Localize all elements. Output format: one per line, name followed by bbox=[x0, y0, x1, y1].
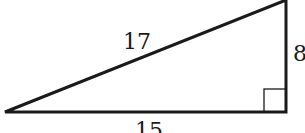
horizontal-leg-label: 15 bbox=[135, 118, 163, 133]
triangle-shape bbox=[5, 0, 286, 112]
right-triangle-diagram: 17 8 15 bbox=[0, 0, 305, 133]
hypotenuse-label: 17 bbox=[123, 29, 151, 54]
right-angle-marker bbox=[264, 89, 286, 112]
vertical-leg-label: 8 bbox=[293, 41, 305, 66]
